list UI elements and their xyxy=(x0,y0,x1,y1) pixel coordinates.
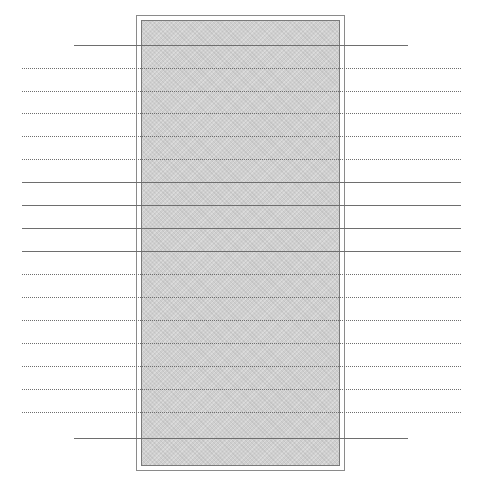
dotted-line-5 xyxy=(22,159,461,160)
dotted-line-11 xyxy=(22,297,461,298)
solid-line-8 xyxy=(22,228,461,229)
dotted-line-12 xyxy=(22,320,461,321)
dotted-line-10 xyxy=(22,274,461,275)
dotted-line-13 xyxy=(22,343,461,344)
dotted-line-15 xyxy=(22,389,461,390)
solid-line-17 xyxy=(74,438,408,439)
dotted-line-16 xyxy=(22,412,461,413)
solid-line-0 xyxy=(74,45,408,46)
dotted-line-3 xyxy=(22,113,461,114)
solid-line-9 xyxy=(22,251,461,252)
dotted-line-4 xyxy=(22,136,461,137)
solid-line-6 xyxy=(22,182,461,183)
shaded-column xyxy=(141,20,340,466)
dotted-line-1 xyxy=(22,68,461,69)
dotted-line-14 xyxy=(22,366,461,367)
solid-line-7 xyxy=(22,205,461,206)
dotted-line-2 xyxy=(22,91,461,92)
